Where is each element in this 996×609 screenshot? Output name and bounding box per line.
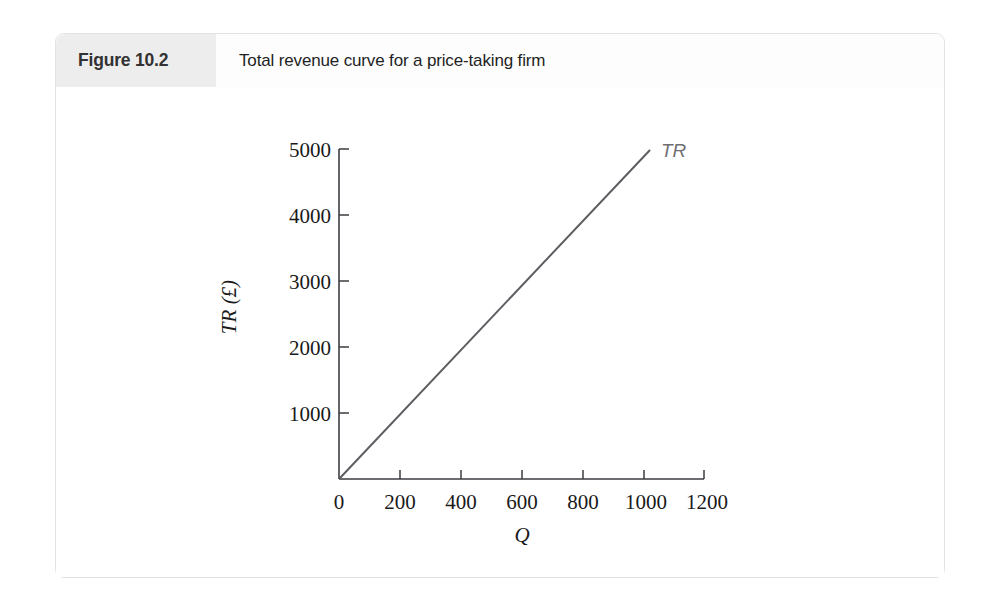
x-tick-label-1200: 1200 (686, 490, 728, 514)
figure-title: Total revenue curve for a price-taking f… (239, 34, 545, 87)
total-revenue-line (340, 150, 650, 478)
figure-card: Figure 10.2 Total revenue curve for a pr… (55, 33, 945, 578)
chart-plot-area: 5000 4000 3000 2000 1000 0 200 400 600 8… (56, 87, 944, 577)
x-tick-label-400: 400 (445, 490, 477, 514)
y-axis-ticks (339, 149, 349, 413)
y-tick-label-3000: 3000 (289, 270, 331, 294)
x-axis-title: Q (514, 523, 529, 547)
y-tick-label-5000: 5000 (289, 138, 331, 162)
x-axis-ticks (400, 470, 704, 479)
x-tick-label-1000: 1000 (625, 490, 667, 514)
y-axis-title: TR (£) (217, 280, 241, 334)
x-tick-label-800: 800 (567, 490, 599, 514)
figure-number-label: Figure 10.2 (56, 50, 168, 71)
figure-header: Figure 10.2 Total revenue curve for a pr… (56, 34, 944, 88)
y-tick-label-1000: 1000 (289, 402, 331, 426)
x-tick-label-600: 600 (506, 490, 538, 514)
tr-curve-label: TR (661, 140, 687, 161)
y-tick-label-4000: 4000 (289, 204, 331, 228)
x-tick-label-200: 200 (384, 490, 416, 514)
x-tick-label-0: 0 (334, 490, 345, 514)
total-revenue-chart: 5000 4000 3000 2000 1000 0 200 400 600 8… (56, 87, 946, 579)
figure-number-badge: Figure 10.2 (56, 34, 216, 87)
y-tick-label-2000: 2000 (289, 336, 331, 360)
